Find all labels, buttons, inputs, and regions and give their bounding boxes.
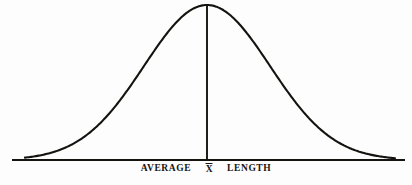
normal-distribution-curve — [25, 5, 395, 158]
bell-curve-plot — [0, 0, 412, 185]
plot-ink — [12, 5, 405, 160]
bell-curve-figure: AVERAGE X LENGTH — [0, 0, 412, 185]
